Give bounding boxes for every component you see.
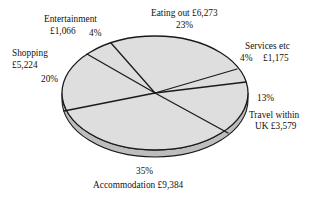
label-travel-name-line1: Travel within — [249, 110, 299, 122]
label-eating-out-name-amount: Eating out £6,273 — [151, 8, 218, 20]
label-accommodation-percent: 35% — [136, 166, 153, 178]
label-services-name: Services etc — [245, 41, 290, 53]
label-entertainment-amount: £1,066 — [50, 26, 76, 38]
label-shopping-percent: 20% — [41, 74, 58, 86]
label-travel-name-line2: UK £3,579 — [255, 121, 297, 133]
label-eating-out-percent: 23% — [176, 20, 193, 32]
label-shopping-name: Shopping — [12, 48, 48, 60]
label-accommodation-name-amount: Accommodation £9,384 — [93, 180, 183, 192]
label-travel-percent: 13% — [257, 93, 274, 105]
label-shopping-amount: £5,224 — [12, 60, 38, 72]
label-services-percent: 4% — [240, 53, 252, 65]
label-services-amount: £1,175 — [263, 53, 289, 65]
label-entertainment-name: Entertainment — [44, 14, 97, 26]
pie-chart-figure: Entertainment £1,066 4% Eating out £6,27… — [0, 0, 322, 198]
label-entertainment-percent: 4% — [89, 28, 101, 40]
